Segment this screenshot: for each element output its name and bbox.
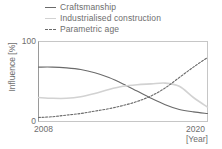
series-group — [39, 58, 208, 118]
series-line — [39, 83, 208, 107]
y-tick-100: 100 — [20, 36, 36, 46]
y-axis-label: Influence [%] — [7, 38, 17, 96]
series-line — [39, 67, 208, 113]
plot-frame — [39, 42, 208, 122]
plot-area-wrapper: Influence [%] 100 0 2008 2020 [Year] — [0, 0, 222, 149]
x-tick-2008: 2008 — [34, 124, 53, 134]
x-tick-2020: 2020 — [186, 124, 205, 134]
x-axis-label: [Year] — [186, 134, 208, 144]
chart-figure: Craftsmanship Industrialised constructio… — [0, 0, 222, 149]
